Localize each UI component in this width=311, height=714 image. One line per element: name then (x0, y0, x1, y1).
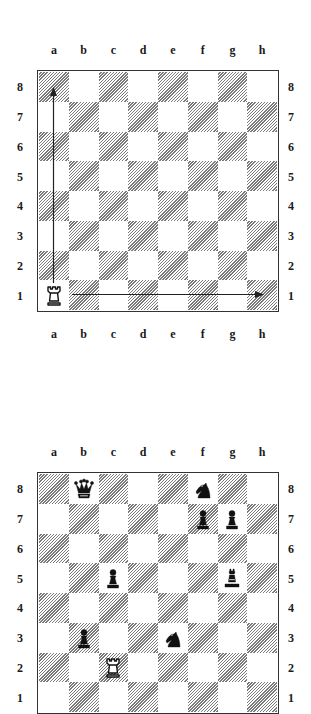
square-a6 (39, 132, 69, 162)
square-c3 (99, 623, 129, 653)
square-b1 (69, 682, 99, 712)
file-label: a (39, 326, 69, 342)
square-g5 (218, 161, 248, 191)
square-e3 (158, 623, 188, 653)
file-label: e (158, 444, 188, 460)
file-label: h (247, 42, 277, 58)
file-label: b (69, 326, 99, 342)
file-label: a (39, 42, 69, 58)
file-label: c (99, 42, 129, 58)
rank-label: 1 (284, 281, 298, 311)
square-f1 (188, 682, 218, 712)
square-g2 (218, 653, 248, 683)
square-b8 (69, 72, 99, 102)
square-e6 (158, 534, 188, 564)
square-a3 (39, 623, 69, 653)
square-h4 (247, 191, 277, 221)
rank-labels-right: 8 7 6 5 4 3 2 1 (284, 73, 298, 311)
square-c3 (99, 221, 129, 251)
square-c7 (99, 102, 129, 132)
square-a4 (39, 191, 69, 221)
square-d7 (128, 102, 158, 132)
square-d7 (128, 504, 158, 534)
square-a6 (39, 534, 69, 564)
white-rook-icon (39, 280, 69, 310)
square-g5 (218, 563, 248, 593)
file-labels-bottom: a b c d e f g h (39, 326, 277, 342)
square-c8 (99, 474, 129, 504)
square-d4 (128, 593, 158, 623)
square-a2 (39, 653, 69, 683)
file-label: b (69, 444, 99, 460)
square-f4 (188, 191, 218, 221)
rank-label: 8 (13, 73, 27, 103)
black-pawn-icon (218, 504, 248, 534)
square-f3 (188, 221, 218, 251)
square-h3 (247, 623, 277, 653)
file-label: h (247, 444, 277, 460)
square-h1 (247, 682, 277, 712)
square-f1 (188, 280, 218, 310)
square-c5 (99, 563, 129, 593)
square-g6 (218, 534, 248, 564)
white-rook-icon (99, 653, 129, 683)
file-label: b (69, 42, 99, 58)
square-c8 (99, 72, 129, 102)
rank-label: 6 (13, 535, 27, 565)
square-b2 (69, 251, 99, 281)
square-f2 (188, 653, 218, 683)
square-f6 (188, 534, 218, 564)
square-g8 (218, 474, 248, 504)
square-d2 (128, 653, 158, 683)
rank-label: 3 (284, 624, 298, 654)
square-a5 (39, 563, 69, 593)
square-g6 (218, 132, 248, 162)
square-g1 (218, 682, 248, 712)
chess-board-1 (37, 70, 279, 312)
square-h2 (247, 653, 277, 683)
square-h8 (247, 72, 277, 102)
square-c7 (99, 504, 129, 534)
rank-labels-right: 8 7 6 5 4 3 2 1 (284, 475, 298, 713)
rank-label: 1 (13, 281, 27, 311)
black-pawn-icon (99, 563, 129, 593)
rank-label: 8 (13, 475, 27, 505)
square-f8 (188, 474, 218, 504)
square-g1 (218, 280, 248, 310)
rank-label: 3 (284, 222, 298, 252)
square-h4 (247, 593, 277, 623)
square-h2 (247, 251, 277, 281)
file-label: e (158, 326, 188, 342)
rank-label: 4 (284, 192, 298, 222)
square-a3 (39, 221, 69, 251)
file-label: a (39, 444, 69, 460)
square-a8 (39, 474, 69, 504)
square-h5 (247, 161, 277, 191)
square-h5 (247, 563, 277, 593)
square-c6 (99, 132, 129, 162)
square-a4 (39, 593, 69, 623)
file-label: f (188, 444, 218, 460)
square-a8 (39, 72, 69, 102)
file-label: g (218, 42, 248, 58)
file-label: h (247, 326, 277, 342)
square-c1 (99, 280, 129, 310)
square-e7 (158, 102, 188, 132)
square-b6 (69, 132, 99, 162)
file-labels-top: a b c d e f g h (39, 444, 277, 460)
square-f7 (188, 102, 218, 132)
square-g3 (218, 623, 248, 653)
rank-label: 5 (13, 564, 27, 594)
black-pawn-icon (188, 504, 218, 534)
rank-label: 6 (284, 535, 298, 565)
square-d3 (128, 623, 158, 653)
rank-label: 7 (284, 103, 298, 133)
square-c4 (99, 593, 129, 623)
rank-label: 1 (284, 683, 298, 713)
square-h3 (247, 221, 277, 251)
square-b3 (69, 221, 99, 251)
square-g4 (218, 191, 248, 221)
square-c5 (99, 161, 129, 191)
file-labels-top: a b c d e f g h (39, 42, 277, 58)
rank-label: 2 (13, 654, 27, 684)
